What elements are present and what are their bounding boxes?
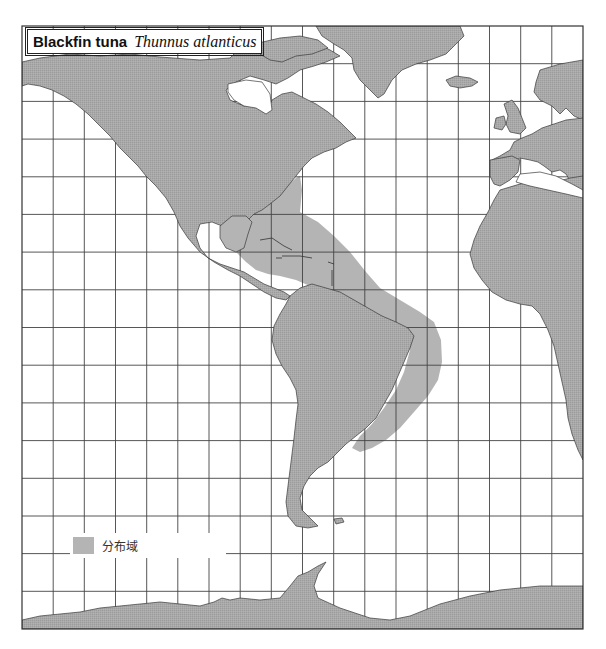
common-name: Blackfin tuna <box>33 33 127 50</box>
legend-swatch-distribution <box>73 537 94 554</box>
legend-label-distribution: 分布域 <box>102 537 138 554</box>
scientific-name: Thunnus atlanticus <box>134 33 256 51</box>
map-title: Blackfin tuna Thunnus atlanticus <box>27 29 262 54</box>
legend: 分布域 <box>70 533 226 558</box>
